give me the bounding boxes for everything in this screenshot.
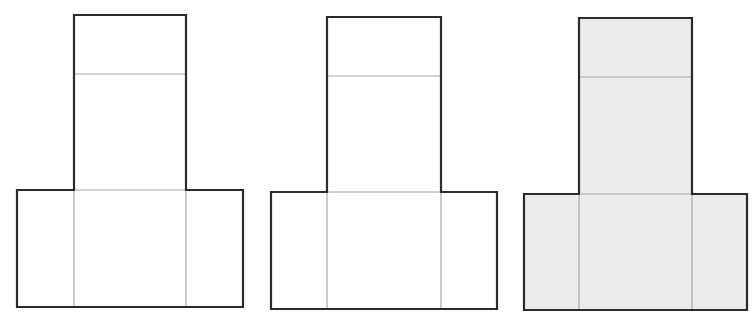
diagram-canvas xyxy=(0,0,753,333)
t-shape-1 xyxy=(17,15,243,307)
shape-fill xyxy=(271,17,497,309)
t-shape-3-shaded xyxy=(524,18,747,310)
shape-fill xyxy=(524,18,747,310)
shape-fill xyxy=(17,15,243,307)
t-shape-2 xyxy=(271,17,497,309)
